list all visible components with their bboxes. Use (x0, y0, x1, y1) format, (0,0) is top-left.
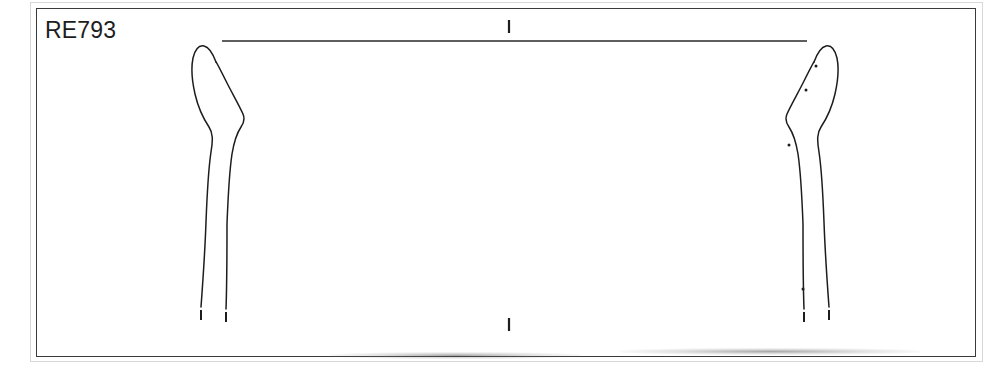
figure-page: RE793 (0, 0, 999, 384)
scan-shadow-left (330, 352, 580, 359)
scan-shadow-right (620, 348, 920, 355)
plate-frame-border (36, 8, 976, 357)
figure-label: RE793 (45, 17, 116, 43)
